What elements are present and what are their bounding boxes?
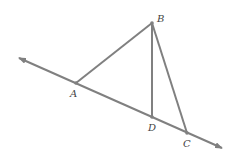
point-a xyxy=(74,81,78,85)
segment-ab xyxy=(76,23,152,83)
label-a: A xyxy=(69,88,77,99)
point-b xyxy=(150,21,154,25)
point-c xyxy=(185,131,189,135)
label-b: B xyxy=(156,13,164,24)
geometry-diagram: A B D C xyxy=(0,0,235,159)
label-d: D xyxy=(147,122,156,133)
label-c: C xyxy=(183,138,191,149)
point-d xyxy=(150,115,154,119)
segment-bc xyxy=(152,23,187,133)
line-ac xyxy=(19,58,222,148)
